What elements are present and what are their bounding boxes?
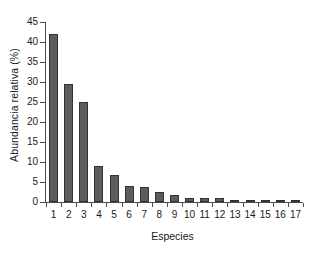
y-tick — [40, 22, 45, 23]
bar — [200, 198, 209, 202]
bar — [64, 84, 73, 202]
x-axis-line — [45, 202, 303, 203]
x-tick — [288, 203, 289, 207]
bar — [94, 166, 103, 202]
x-tick — [122, 203, 123, 207]
x-tick — [106, 203, 107, 207]
y-tick — [40, 162, 45, 163]
x-tick — [76, 203, 77, 207]
x-tick — [197, 203, 198, 207]
y-tick-label: 25 — [12, 96, 38, 107]
x-tick — [243, 203, 244, 207]
y-tick-label: 15 — [12, 136, 38, 147]
y-tick-label: 20 — [12, 116, 38, 127]
bar — [79, 102, 88, 202]
y-tick-label: 5 — [12, 176, 38, 187]
plot-area — [46, 22, 303, 202]
x-tick — [137, 203, 138, 207]
x-tick-label: 17 — [283, 209, 307, 220]
y-tick — [40, 122, 45, 123]
x-tick — [273, 203, 274, 207]
y-tick — [40, 202, 45, 203]
y-tick — [40, 182, 45, 183]
bar — [246, 200, 255, 202]
bar — [230, 200, 239, 202]
bar — [291, 200, 300, 202]
y-tick — [40, 82, 45, 83]
y-tick-label: 30 — [12, 76, 38, 87]
y-tick — [40, 62, 45, 63]
bar — [276, 200, 285, 202]
y-tick — [40, 102, 45, 103]
bar — [185, 198, 194, 202]
bar — [140, 187, 149, 202]
x-tick — [182, 203, 183, 207]
y-tick-label: 0 — [12, 196, 38, 207]
bar — [215, 198, 224, 202]
y-tick-label: 35 — [12, 56, 38, 67]
x-tick — [91, 203, 92, 207]
y-tick-label: 10 — [12, 156, 38, 167]
y-tick — [40, 42, 45, 43]
y-tick — [40, 142, 45, 143]
bar — [49, 34, 58, 202]
x-tick — [152, 203, 153, 207]
x-tick — [212, 203, 213, 207]
x-tick — [61, 203, 62, 207]
x-tick — [227, 203, 228, 207]
x-tick — [303, 203, 304, 207]
bar — [155, 192, 164, 202]
bar — [110, 175, 119, 202]
bar-chart-figure: Abundancia relativa (%) 0510152025303540… — [0, 0, 311, 255]
x-axis-title: Especies — [40, 230, 305, 242]
y-tick-label: 40 — [12, 36, 38, 47]
x-tick — [258, 203, 259, 207]
x-tick — [46, 203, 47, 207]
x-tick — [167, 203, 168, 207]
y-tick-label: 45 — [12, 16, 38, 27]
bar — [170, 195, 179, 202]
bar — [261, 200, 270, 202]
bar — [125, 186, 134, 202]
